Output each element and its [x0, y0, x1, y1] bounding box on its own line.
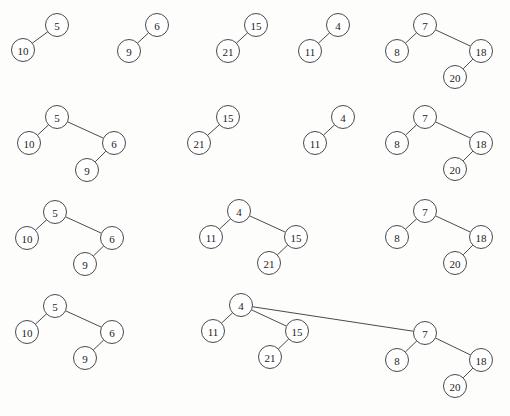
node-circle-20[interactable] — [444, 375, 467, 398]
tree-node-21[interactable]: 21 — [217, 40, 240, 63]
node-circle-18[interactable] — [470, 226, 493, 249]
tree-node-6[interactable]: 6 — [103, 132, 126, 155]
node-circle-18[interactable] — [470, 40, 493, 63]
tree-node-18[interactable]: 18 — [470, 226, 493, 249]
tree-node-7[interactable]: 7 — [414, 106, 437, 129]
tree-node-21[interactable]: 21 — [258, 252, 281, 275]
node-circle-21[interactable] — [188, 132, 211, 155]
node-circle-7[interactable] — [414, 322, 437, 345]
tree-node-21[interactable]: 21 — [259, 346, 282, 369]
tree-node-7[interactable]: 7 — [414, 14, 437, 37]
tree-node-20[interactable]: 20 — [444, 375, 467, 398]
tree-node-18[interactable]: 18 — [470, 349, 493, 372]
node-circle-5[interactable] — [46, 14, 69, 37]
node-circle-10[interactable] — [12, 39, 35, 62]
node-circle-11[interactable] — [299, 40, 322, 63]
tree-node-11[interactable]: 11 — [299, 40, 322, 63]
node-circle-10[interactable] — [16, 321, 39, 344]
tree-node-15[interactable]: 15 — [217, 106, 240, 129]
tree-node-4[interactable]: 4 — [228, 200, 251, 223]
node-circle-6[interactable] — [146, 14, 169, 37]
node-circle-15[interactable] — [217, 106, 240, 129]
tree-node-7[interactable]: 7 — [414, 322, 437, 345]
tree-node-11[interactable]: 11 — [202, 320, 225, 343]
node-circle-9[interactable] — [74, 347, 97, 370]
tree-node-6[interactable]: 6 — [146, 14, 169, 37]
node-circle-6[interactable] — [101, 321, 124, 344]
node-circle-11[interactable] — [202, 320, 225, 343]
tree-node-9[interactable]: 9 — [74, 253, 97, 276]
tree-node-9[interactable]: 9 — [76, 159, 99, 182]
node-circle-4[interactable] — [327, 14, 350, 37]
tree-node-18[interactable]: 18 — [470, 40, 493, 63]
tree-node-5[interactable]: 5 — [46, 106, 69, 129]
node-circle-20[interactable] — [444, 252, 467, 275]
node-circle-6[interactable] — [101, 227, 124, 250]
tree-node-8[interactable]: 8 — [386, 132, 409, 155]
tree-node-7[interactable]: 7 — [414, 200, 437, 223]
node-circle-20[interactable] — [444, 158, 467, 181]
tree-node-10[interactable]: 10 — [18, 132, 41, 155]
node-circle-7[interactable] — [414, 200, 437, 223]
tree-node-20[interactable]: 20 — [444, 158, 467, 181]
binomial-heap-forest-diagram: 5106915214117818205106915214117818205106… — [0, 0, 510, 416]
tree-node-20[interactable]: 20 — [444, 66, 467, 89]
node-circle-8[interactable] — [386, 349, 409, 372]
node-circle-21[interactable] — [258, 252, 281, 275]
node-circle-11[interactable] — [200, 226, 223, 249]
tree-node-6[interactable]: 6 — [101, 321, 124, 344]
node-circle-7[interactable] — [414, 106, 437, 129]
tree-node-11[interactable]: 11 — [304, 132, 327, 155]
node-circle-9[interactable] — [76, 159, 99, 182]
tree-node-10[interactable]: 10 — [16, 227, 39, 250]
node-circle-5[interactable] — [46, 106, 69, 129]
tree-node-4[interactable]: 4 — [230, 294, 253, 317]
node-circle-4[interactable] — [228, 200, 251, 223]
node-circle-6[interactable] — [103, 132, 126, 155]
node-circle-15[interactable] — [286, 320, 309, 343]
node-circle-11[interactable] — [304, 132, 327, 155]
tree-node-18[interactable]: 18 — [470, 132, 493, 155]
node-circle-5[interactable] — [44, 201, 67, 224]
node-circle-21[interactable] — [217, 40, 240, 63]
tree-node-20[interactable]: 20 — [444, 252, 467, 275]
node-circle-5[interactable] — [44, 295, 67, 318]
node-circle-8[interactable] — [386, 226, 409, 249]
node-circle-18[interactable] — [470, 349, 493, 372]
tree-node-15[interactable]: 15 — [286, 320, 309, 343]
tree-node-8[interactable]: 8 — [386, 40, 409, 63]
tree-node-9[interactable]: 9 — [74, 347, 97, 370]
node-circle-15[interactable] — [285, 226, 308, 249]
tree-node-5[interactable]: 5 — [46, 14, 69, 37]
node-circle-10[interactable] — [18, 132, 41, 155]
tree-node-4[interactable]: 4 — [327, 14, 350, 37]
tree-node-10[interactable]: 10 — [12, 39, 35, 62]
node-circle-9[interactable] — [74, 253, 97, 276]
tree-node-15[interactable]: 15 — [285, 226, 308, 249]
node-circle-21[interactable] — [259, 346, 282, 369]
node-circle-8[interactable] — [386, 132, 409, 155]
node-circle-10[interactable] — [16, 227, 39, 250]
tree-node-4[interactable]: 4 — [332, 106, 355, 129]
node-circle-15[interactable] — [245, 14, 268, 37]
node-circle-20[interactable] — [444, 66, 467, 89]
node-circle-4[interactable] — [230, 294, 253, 317]
node-circle-8[interactable] — [386, 40, 409, 63]
tree-node-5[interactable]: 5 — [44, 295, 67, 318]
tree-node-8[interactable]: 8 — [386, 226, 409, 249]
tree-node-15[interactable]: 15 — [245, 14, 268, 37]
node-circle-7[interactable] — [414, 14, 437, 37]
node-circle-9[interactable] — [118, 40, 141, 63]
tree-node-9[interactable]: 9 — [118, 40, 141, 63]
node-circle-4[interactable] — [332, 106, 355, 129]
tree-node-5[interactable]: 5 — [44, 201, 67, 224]
tree-node-11[interactable]: 11 — [200, 226, 223, 249]
tree-node-6[interactable]: 6 — [101, 227, 124, 250]
tree-node-21[interactable]: 21 — [188, 132, 211, 155]
node-circle-18[interactable] — [470, 132, 493, 155]
tree-node-10[interactable]: 10 — [16, 321, 39, 344]
tree-node-8[interactable]: 8 — [386, 349, 409, 372]
